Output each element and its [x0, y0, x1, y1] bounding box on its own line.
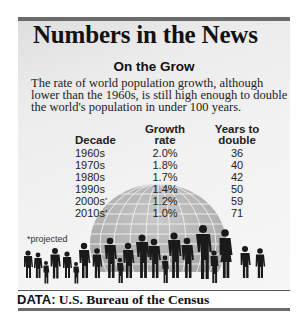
column-header-growth-rate: Growth rate	[137, 124, 193, 146]
table-row-years: 40	[215, 159, 259, 171]
table-row-rate: 1.8%	[140, 159, 190, 171]
source-label: DATA:	[17, 292, 56, 307]
people-silhouettes-icon	[20, 208, 288, 284]
table-row-decade: 1980s	[75, 171, 105, 183]
source-credit: DATA: U.S. Bureau of the Census	[17, 292, 209, 308]
table-row-decade: 1960s	[75, 147, 105, 159]
table-row-rate: 1.7%	[140, 171, 190, 183]
column-header-growth-rate-line2: rate	[137, 135, 193, 146]
table-row-rate: 1.4%	[140, 183, 190, 195]
column-header-decade: Decade	[75, 135, 116, 146]
table-row-decade: 1970s	[75, 159, 105, 171]
table-row-decade: 2000s*	[75, 195, 107, 207]
column-header-years-line2: double	[205, 135, 269, 146]
table-row-years: 50	[215, 183, 259, 195]
table-row-years: 36	[215, 147, 259, 159]
table-row-decade: 1990s	[75, 183, 105, 195]
source-value: U.S. Bureau of the Census	[59, 292, 210, 307]
bottom-bar	[18, 308, 290, 311]
table-row-years: 59	[215, 195, 259, 207]
table-row-years: 42	[215, 171, 259, 183]
bottom-rule	[18, 290, 290, 291]
table-row-rate: 2.0%	[140, 147, 190, 159]
table-row-rate: 1.2%	[140, 195, 190, 207]
column-header-years-to-double: Years to double	[205, 124, 269, 146]
